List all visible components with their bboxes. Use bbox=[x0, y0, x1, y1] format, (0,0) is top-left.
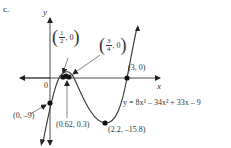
y-axis-label: y bbox=[43, 8, 47, 17]
origin-label: 0 bbox=[44, 82, 48, 90]
part-label: c. bbox=[3, 5, 9, 14]
curve-arrow-bottom-icon bbox=[40, 139, 45, 146]
leader-root-three-quarters bbox=[73, 55, 100, 74]
equation-label: y = 8x³ – 34x² + 33x – 9 bbox=[123, 99, 201, 107]
point-local-min bbox=[102, 120, 107, 125]
label-local-min: (2.2, –15.8) bbox=[108, 126, 145, 134]
point-root-three-quarters bbox=[66, 74, 71, 79]
label-local-max: (0.62, 0.3) bbox=[56, 121, 89, 129]
label-y-intercept: (0, –9) bbox=[13, 112, 34, 120]
point-root-three bbox=[124, 75, 129, 80]
leader-root-half bbox=[63, 58, 68, 73]
label-root-three: (3, 0) bbox=[128, 64, 145, 72]
curve-arrow-top-icon bbox=[135, 25, 140, 31]
x-axis-label: x bbox=[157, 82, 161, 91]
label-root-half: ( 1 2 , 0 ) bbox=[52, 28, 80, 46]
label-root-three-quarters: ( 3 4 , 0 ) bbox=[99, 36, 127, 54]
point-y-intercept bbox=[47, 100, 52, 105]
